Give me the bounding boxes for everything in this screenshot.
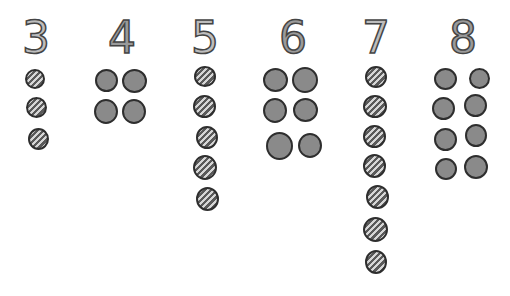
dot-solid [263,98,287,123]
numeral-4: 4 [103,16,141,60]
dot-solid [432,97,455,120]
dot-solid [292,67,318,93]
dot-solid [266,132,293,160]
dot-striped [193,95,216,118]
dot-solid [263,68,288,92]
dot-solid [464,155,488,179]
dot-striped [365,250,387,274]
dot-solid [298,133,322,158]
dot-solid [122,99,146,124]
dot-striped [363,154,386,178]
numeral-8: 8 [447,16,479,60]
numeral-7: 7 [361,16,391,60]
dot-solid [435,158,457,180]
dot-striped [26,97,47,118]
dot-striped [366,185,389,209]
dot-striped [196,126,218,149]
dot-striped [196,187,219,211]
dot-striped [25,69,45,89]
dot-solid [94,99,118,124]
dot-striped [363,125,386,148]
dot-solid [122,69,147,93]
dot-solid [469,68,490,89]
dot-striped [365,66,387,88]
dot-solid [464,94,487,117]
dot-solid [434,68,457,90]
dot-striped [194,66,216,87]
dot-solid [465,124,487,147]
numeral-6: 6 [275,16,311,60]
dot-solid [434,128,457,151]
dot-striped [28,128,49,150]
dot-striped [193,155,217,180]
dot-striped [363,217,388,242]
dot-solid [293,98,318,122]
numeral-5: 5 [189,16,221,60]
dot-solid [95,69,118,92]
numeral-3: 3 [20,16,52,60]
dot-striped [363,95,387,118]
